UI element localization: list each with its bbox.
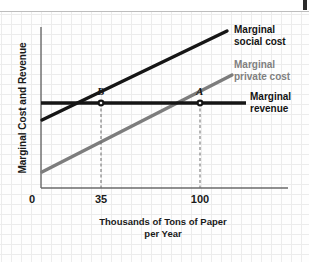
chart-page: B A Marginal social cost Marginal privat… xyxy=(0,0,309,262)
point-a-label: A xyxy=(195,85,203,97)
marginal-revenue-label-line2: revenue xyxy=(250,103,289,114)
y-axis-title: Marginal Cost and Revenue xyxy=(17,42,28,174)
point-a-center xyxy=(199,102,202,105)
x-axis-title-line1: Thousands of Tons of Paper xyxy=(99,216,227,227)
x-tick-label-35: 35 xyxy=(95,193,107,205)
x-axis-title-line2: per Year xyxy=(144,228,182,239)
marginal-social-cost-label-line2: social cost xyxy=(234,36,286,47)
marginal-revenue-label-line1: Marginal xyxy=(250,91,291,102)
x-tick-label-0: 0 xyxy=(29,193,35,205)
marginal-private-cost-curve xyxy=(42,75,232,172)
chart-plot-area: B A Marginal social cost Marginal privat… xyxy=(0,11,309,262)
x-tick-label-100: 100 xyxy=(191,193,209,205)
page-edge-marker xyxy=(303,0,307,10)
externality-chart-svg: B A Marginal social cost Marginal privat… xyxy=(0,11,309,262)
marginal-social-cost-label-line1: Marginal xyxy=(234,24,275,35)
marginal-social-cost-curve xyxy=(42,31,227,120)
marginal-private-cost-label-line2: private cost xyxy=(234,71,291,82)
point-b-center xyxy=(100,102,103,105)
marginal-private-cost-label-line1: Marginal xyxy=(234,59,275,70)
point-b-label: B xyxy=(96,85,104,97)
